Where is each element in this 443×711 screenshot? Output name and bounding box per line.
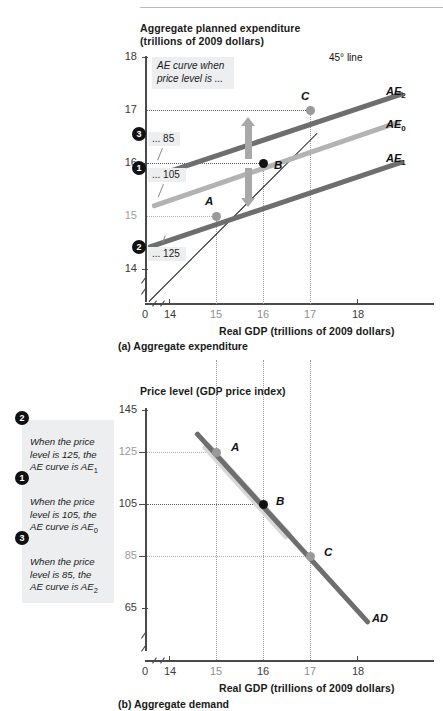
panel-b-x-axis-title: Real GDP (trillions of 2009 dollars): [219, 682, 395, 695]
panel-b-point-a: [212, 448, 221, 457]
panel-b-ytick-125: [139, 452, 145, 453]
panel-a-badge-1: 1: [132, 161, 146, 175]
panel-b-badge-3: 3: [15, 531, 29, 545]
panel-b-point-c: [306, 552, 315, 561]
panel-b-gridline-105: [147, 504, 263, 505]
panel-b-ytick-label-65: 65: [105, 601, 137, 613]
panel-a-badge-3: 3: [132, 127, 146, 141]
panel-b-point-c-label: C: [324, 546, 332, 558]
panel-b-xtick-label-0: 0: [135, 665, 155, 677]
panel-b-xtick-label-17: 17: [300, 665, 320, 677]
panel-b-ytick-105: [139, 504, 145, 505]
panel-b-point-b: [259, 500, 268, 509]
panel-b-gridline-x17: [310, 360, 311, 660]
panel-b-callout-1: When the price level is 105, the AE curv…: [22, 480, 114, 543]
panel-b-callout-3: When the price level is 85, the AE curve…: [22, 540, 114, 603]
panel-b-curve-ad: [194, 431, 371, 625]
panel-b-badge-1: 1: [15, 471, 29, 485]
panel-b-ytick-85: [139, 556, 145, 557]
panel-b-y-axis: [145, 408, 147, 651]
panel-b-xtick-label-16: 16: [253, 665, 273, 677]
panel-b-point-b-label: B: [276, 495, 284, 507]
panel-b-chart: Price level (GDP price index) 145 125 10…: [0, 0, 443, 711]
panel-b-ytick-label-145: 145: [105, 403, 137, 415]
panel-b-ytick-65: [142, 608, 148, 609]
panel-b-x-axis: [145, 660, 434, 662]
figure-page: Aggregate planned expenditure(trillions …: [0, 0, 443, 711]
panel-b-xtick-label-15: 15: [206, 665, 226, 677]
panel-b-xtick-14: [169, 656, 170, 662]
panel-b-curve-label-ad: AD: [372, 612, 388, 624]
panel-b-caption: (b) Aggregate demand: [118, 698, 229, 710]
panel-b-badge-2: 2: [15, 411, 29, 425]
panel-b-xtick-label-18: 18: [348, 665, 368, 677]
panel-b-point-a-label: A: [231, 441, 239, 453]
panel-b-callout-2: When the price level is 125, the AE curv…: [22, 420, 114, 483]
panel-b-gridline-x15: [216, 360, 217, 660]
panel-b-xtick-label-14: 14: [160, 665, 180, 677]
panel-b-gridline-85: [147, 556, 310, 557]
panel-b-xtick-18: [357, 656, 358, 662]
panel-b-ytick-145: [142, 410, 148, 411]
panel-a-badge-2: 2: [132, 240, 146, 254]
